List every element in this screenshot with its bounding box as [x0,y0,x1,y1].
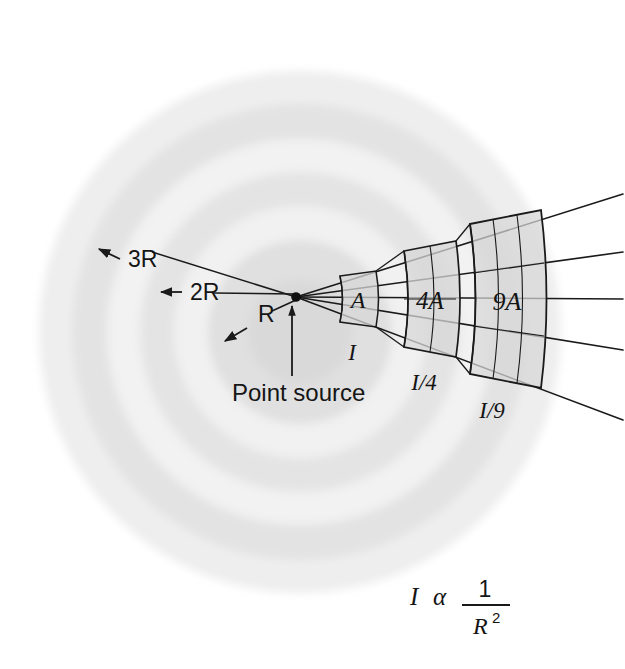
radius-label-3R: 3R [128,246,157,272]
point-source-label: Point source [232,379,365,406]
formula-denominator-exponent: 2 [492,609,500,626]
area-label-9A: 9A [493,287,522,316]
formula-denominator-base: R [472,613,488,639]
intensity-label-I: I [347,340,357,365]
area-label-A: A [349,287,366,313]
intensity-label-I-over-4: I/4 [410,370,437,395]
formula-proportional-icon: α [433,583,447,610]
intensity-label-I-over-9: I/9 [478,398,505,423]
point-source-dot [291,292,301,302]
diagram-canvas: 3R 2R R Point source A 4A 9A I I/4 I/9 I… [0,0,625,669]
inverse-square-formula-group: I α 1 R 2 [409,576,510,639]
radius-label-R: R [258,301,275,327]
radius-2R-leader [214,293,296,294]
inverse-square-law-figure: 3R 2R R Point source A 4A 9A I I/4 I/9 I… [0,0,625,669]
radius-label-2R: 2R [190,279,219,305]
formula-numerator: 1 [479,576,492,602]
area-label-4A: 4A [416,287,445,314]
formula-quantity: I [409,583,420,610]
